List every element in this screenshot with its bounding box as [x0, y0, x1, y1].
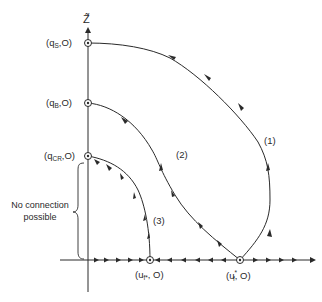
- trajectory-label-3: (3): [153, 216, 165, 226]
- point-label-uf-star-sub: (uf*, O): [135, 270, 164, 282]
- point-label-uf-star-sup: (u*f, O): [226, 270, 251, 283]
- no-connection-note: No connection possible: [4, 199, 76, 223]
- trajectory-2: [88, 103, 240, 260]
- trajectory-label-1: (1): [264, 136, 276, 146]
- point-label-qS: (qS,O): [46, 38, 72, 50]
- point-label-qCR: (qCR,O): [44, 151, 75, 163]
- trajectory-3: [88, 156, 150, 260]
- trajectory-label-2: (2): [176, 150, 188, 160]
- point-label-qB: (qB,O): [46, 98, 72, 110]
- equilibrium-points: [85, 40, 244, 264]
- vertical-axis-label: Z̃: [83, 14, 90, 25]
